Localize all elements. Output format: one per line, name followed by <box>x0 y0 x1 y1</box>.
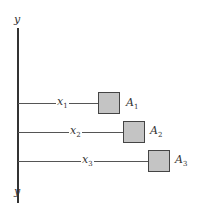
area-label-2: A2 <box>150 125 162 139</box>
area-label-1: A1 <box>126 97 138 111</box>
moment-arm-label-2: x2 <box>69 125 82 139</box>
area-square-3 <box>148 150 170 172</box>
y-axis-bottom-label: y <box>14 186 20 197</box>
area-label-3: A3 <box>175 154 187 168</box>
area-square-1 <box>98 92 120 114</box>
y-axis-line <box>17 28 19 203</box>
moment-arm-label-3: x3 <box>81 154 94 168</box>
y-axis-top-label: y <box>14 14 20 25</box>
moment-arm-label-1: x1 <box>56 96 69 110</box>
area-square-2 <box>123 121 145 143</box>
